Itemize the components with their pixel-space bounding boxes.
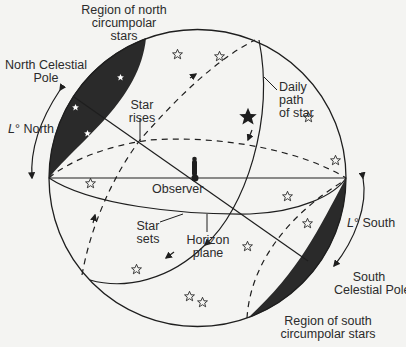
south-dashed-path [247,180,345,318]
label-star-sets: Star sets [133,220,163,246]
label-latitude-south: L° South [347,217,395,230]
label-horizon-plane: Horizon plane [186,234,230,260]
observer-figure [192,157,199,182]
label-daily-path: Daily path of star [279,81,314,120]
label-south-circumpolar-region: Region of south circumpolar stars [278,315,378,341]
south-circumpolar-region [248,178,346,318]
daily-path-leader [264,77,277,90]
label-observer: Observer [152,183,203,196]
label-north-celestial-pole: North Celestial Pole [4,59,88,85]
label-north-circumpolar-region: Region of north circumpolar stars [74,4,174,43]
label-star-rises: Star rises [127,99,157,125]
star-sets-leader [160,214,183,222]
label-latitude-north: L° North [8,123,54,136]
horizon-ellipse-back [49,139,346,178]
highlighted-star-icon [239,108,256,125]
label-south-celestial-pole: South Celestial Pole [334,271,404,297]
